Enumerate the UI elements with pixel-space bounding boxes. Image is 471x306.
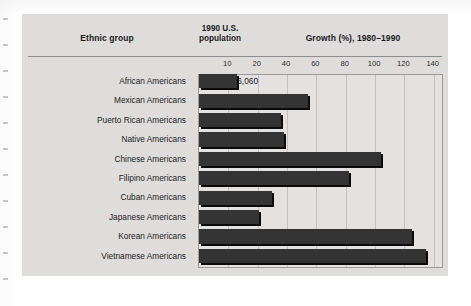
x-tick-40: 40 <box>273 59 299 68</box>
row-label-ethnic-group: Mexican Americans <box>28 95 186 105</box>
bar-growth-percent <box>199 171 349 185</box>
x-tick-140: 140 <box>420 59 446 68</box>
row-bar-area <box>199 91 442 110</box>
column-header-population: 1990 U.S. population <box>182 24 258 44</box>
row-bar-area <box>199 188 442 207</box>
table-row: Korean Americans798,849 <box>22 227 448 246</box>
row-label-ethnic-group: Korean Americans <box>28 231 186 241</box>
bar-growth-percent <box>199 229 412 243</box>
table-row: Chinese Americans1,645,472 <box>22 150 448 169</box>
column-header-population-line2: population <box>182 34 258 44</box>
chart-rows: African Americans29,986,060Mexican Ameri… <box>22 72 448 270</box>
bar-growth-percent <box>199 249 426 263</box>
bar-growth-percent <box>199 94 308 108</box>
column-header-ethnic-group: Ethnic group <box>28 33 186 43</box>
figure-card: Ethnic group 1990 U.S. population Growth… <box>22 14 448 276</box>
table-row: Filipino Americans1,406,770 <box>22 169 448 188</box>
row-bar-area <box>199 227 442 246</box>
row-label-ethnic-group: Chinese Americans <box>28 154 186 164</box>
row-bar-area <box>199 247 442 266</box>
bar-growth-percent <box>199 74 237 88</box>
table-row: Mexican Americans13,495,938 <box>22 91 448 110</box>
table-row: Puerto Rican Americans2,727,754 <box>22 111 448 130</box>
x-tick-120: 120 <box>390 59 416 68</box>
x-tick-80: 80 <box>332 59 358 68</box>
table-row: Native Americans1,878,285 <box>22 130 448 149</box>
x-tick-60: 60 <box>302 59 328 68</box>
row-bar-area <box>199 150 442 169</box>
x-tick-100: 100 <box>361 59 387 68</box>
row-bar-area <box>199 169 442 188</box>
x-axis-tick-labels: 1020406080100120140 <box>198 59 448 73</box>
table-row: Japanese Americans847,562 <box>22 208 448 227</box>
bar-growth-percent <box>199 152 381 166</box>
row-label-ethnic-group: Japanese Americans <box>28 212 186 222</box>
table-row: Cuban Americans1,043,932 <box>22 188 448 207</box>
bar-growth-percent <box>199 191 272 205</box>
column-header-growth: Growth (%), 1980–1990 <box>262 33 444 43</box>
x-tick-10: 10 <box>214 59 240 68</box>
row-label-ethnic-group: Vietnamese Americans <box>28 251 186 261</box>
bar-growth-percent <box>199 113 281 127</box>
bar-growth-percent <box>199 210 259 224</box>
scan-margin-marks <box>0 0 14 306</box>
row-label-ethnic-group: African Americans <box>28 76 186 86</box>
row-label-ethnic-group: Puerto Rican Americans <box>28 115 186 125</box>
row-bar-area <box>199 72 442 91</box>
row-bar-area <box>199 208 442 227</box>
row-bar-area <box>199 130 442 149</box>
table-header: Ethnic group 1990 U.S. population Growth… <box>22 22 448 56</box>
row-label-ethnic-group: Filipino Americans <box>28 173 186 183</box>
row-label-ethnic-group: Native Americans <box>28 134 186 144</box>
row-label-ethnic-group: Cuban Americans <box>28 192 186 202</box>
table-row: African Americans29,986,060 <box>22 72 448 91</box>
row-bar-area <box>199 111 442 130</box>
bar-growth-percent <box>199 132 284 146</box>
figure-root: Ethnic group 1990 U.S. population Growth… <box>0 0 471 306</box>
table-row: Vietnamese Americans614,547 <box>22 247 448 266</box>
x-tick-20: 20 <box>244 59 270 68</box>
column-header-population-line1: 1990 U.S. <box>182 24 258 34</box>
header-divider <box>28 56 442 57</box>
